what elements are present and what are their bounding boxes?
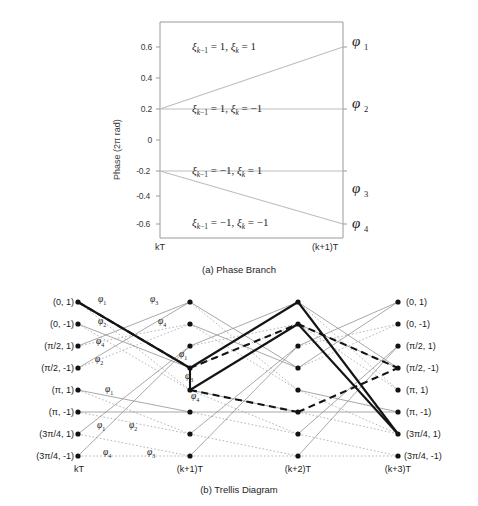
trellis-branch-label-9: φ3 xyxy=(147,447,155,459)
trellis-branch-label-2: φ2 xyxy=(98,316,106,328)
state-label-left-2: (π/2, 1) xyxy=(0,341,74,351)
trellis-thin-branches xyxy=(78,302,398,456)
panel-trellis-diagram: .thin {stroke:#8c8c8c;stroke-width:0.75;… xyxy=(0,256,478,506)
state-label-left-6: (3π/4, 1) xyxy=(0,429,74,439)
trellis-branch-label-6: φ1 xyxy=(97,420,105,432)
ytick-label-0: 0.6 xyxy=(126,42,152,52)
ytick-label-5: -0.4 xyxy=(124,191,150,201)
ytick-label-6: -0.6 xyxy=(124,219,150,229)
xtick-label-k1T: (k+1)T xyxy=(312,242,338,252)
state-label-left-7: (3π/4, -1) xyxy=(0,451,74,461)
phi-label-2: φ 2 xyxy=(352,95,368,114)
state-label-right-6: (3π/4, 1) xyxy=(406,429,441,439)
trellis-time-k2T: (k+2)T xyxy=(271,464,325,474)
state-label-left-0: (0, 1) xyxy=(0,297,74,307)
trellis-branch-label-13: φ3 xyxy=(185,371,193,383)
state-label-right-7: (3π/4, -1) xyxy=(404,451,442,461)
trellis-branch-label-7: φ2 xyxy=(129,420,137,432)
trellis-time-kT: kT xyxy=(62,464,96,474)
condition-label-3: ξk−1 = −1, ξk = 1 xyxy=(192,164,262,179)
state-label-left-3: (π/2, -1) xyxy=(0,363,74,373)
trellis-branch-label-12: φ1 xyxy=(179,349,187,361)
y-axis-label: Phase (2π rad) xyxy=(112,119,122,180)
trellis-branch-label-4: φ2 xyxy=(95,354,103,366)
branch-phi1 xyxy=(160,47,343,109)
ytick-label-1: 0.4 xyxy=(126,73,152,83)
trellis-branch-label-11: φ4 xyxy=(158,316,166,328)
state-label-right-0: (0, 1) xyxy=(406,297,427,307)
phi-label-1: φ 1 xyxy=(352,33,368,52)
condition-label-1: ξk−1 = 1, ξk = 1 xyxy=(192,40,256,55)
caption-panel-b: (b) Trellis Diagram xyxy=(0,484,478,495)
trellis-branch-label-3: φ4 xyxy=(96,336,104,348)
state-label-right-1: (0, -1) xyxy=(406,319,430,329)
phi-label-4: φ 4 xyxy=(352,215,368,234)
state-label-left-4: (π, 1) xyxy=(0,385,74,395)
state-label-left-5: (π, -1) xyxy=(0,407,74,417)
state-label-right-5: (π, -1) xyxy=(406,407,431,417)
trellis-branch-label-8: φ4 xyxy=(103,447,111,459)
trellis-survivor-path-solid-2 xyxy=(190,324,398,434)
trellis-branch-label-1: φ1 xyxy=(98,294,106,306)
trellis-branch-label-10: φ3 xyxy=(150,294,158,306)
xtick-label-kT: kT xyxy=(155,242,165,252)
trellis-branch-label-5: φ1 xyxy=(105,384,113,396)
trellis-time-k1T: (k+1)T xyxy=(163,464,217,474)
trellis-time-k3T: (k+3)T xyxy=(371,464,425,474)
state-label-right-2: (π/2, 1) xyxy=(406,341,436,351)
panel-phase-branch: 0.6 0.4 0.2 0 -0.2 -0.4 -0.6 Phase (2π r… xyxy=(0,0,478,256)
trellis-survivor-path-solid xyxy=(78,302,398,434)
ytick-label-3: 0 xyxy=(126,135,152,145)
condition-label-4: ξk−1 = −1, ξk = −1 xyxy=(192,216,268,231)
state-label-left-1: (0, -1) xyxy=(0,319,74,329)
state-label-right-4: (π, 1) xyxy=(406,385,428,395)
trellis-nodes xyxy=(75,299,400,458)
phi-label-3: φ 3 xyxy=(352,180,368,199)
trellis-survivor-path-dashed xyxy=(78,302,398,368)
ytick-label-4: -0.2 xyxy=(124,166,150,176)
trellis-branch-label-14: φ4 xyxy=(191,391,199,403)
figure-container: 0.6 0.4 0.2 0 -0.2 -0.4 -0.6 Phase (2π r… xyxy=(0,0,478,506)
state-label-right-3: (π/2, -1) xyxy=(406,363,439,373)
condition-label-2: ξk−1 = 1, ξk = −1 xyxy=(192,102,262,117)
ytick-label-2: 0.2 xyxy=(126,104,152,114)
